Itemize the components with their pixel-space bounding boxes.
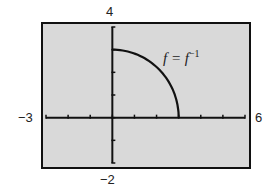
function-label: f = f−1 bbox=[163, 48, 200, 67]
ymax-label: 4 bbox=[106, 4, 113, 19]
graph-window bbox=[0, 0, 269, 192]
xmax-label: 6 bbox=[255, 110, 262, 125]
ymin-label: −2 bbox=[100, 172, 115, 187]
xmin-label: −3 bbox=[18, 110, 33, 125]
plot-frame bbox=[42, 23, 250, 168]
